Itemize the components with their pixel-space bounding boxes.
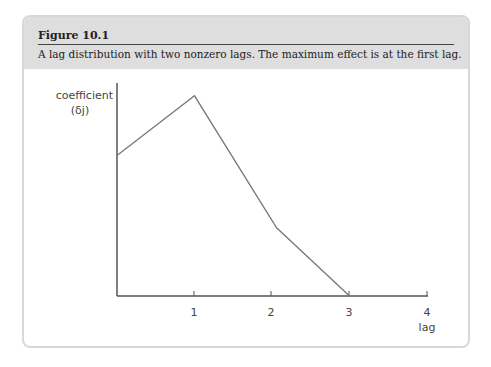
y-axis-label-line2: (δj) <box>71 104 89 117</box>
x-tick-label: 4 <box>424 306 431 319</box>
x-tick-label: 3 <box>346 306 353 319</box>
y-axis-label-line1: coefficient <box>56 89 114 102</box>
x-tick-label: 2 <box>268 306 275 319</box>
lag-distribution-chart: 1 2 3 4 lag coefficient (δj) <box>0 0 491 367</box>
lag-coefficient-line <box>117 96 350 296</box>
x-tick-label: 1 <box>191 306 198 319</box>
x-axis-label: lag <box>419 321 436 334</box>
